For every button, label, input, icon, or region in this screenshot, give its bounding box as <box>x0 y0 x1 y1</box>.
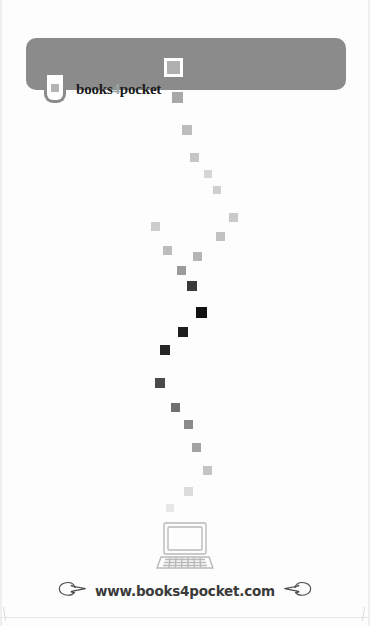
trail-square <box>193 252 202 261</box>
badge-inner-square <box>51 84 59 92</box>
trail-square <box>163 246 172 255</box>
trail-square <box>213 186 221 194</box>
trail-square <box>190 153 199 162</box>
wordmark-prefix: books <box>76 81 113 97</box>
brand-logo: books4pocket <box>44 74 161 104</box>
trail-square <box>204 170 212 178</box>
trail-square <box>192 443 201 452</box>
trail-square <box>184 420 193 429</box>
trail-square <box>229 213 238 222</box>
scan-edge-left <box>0 0 2 626</box>
trail-square <box>216 232 225 241</box>
trail-square <box>182 125 192 135</box>
pocket-badge-icon <box>44 75 66 103</box>
pointing-hand-right-icon <box>57 581 87 601</box>
website-url-text[interactable]: www.books4pocket.com <box>95 583 275 599</box>
scan-edge-bottom <box>0 617 370 618</box>
trail-square <box>171 403 180 412</box>
trail-square <box>166 504 174 512</box>
trail-square <box>184 487 193 496</box>
laptop-computer-icon <box>156 521 214 571</box>
trail-square <box>160 345 170 355</box>
scan-corner-right <box>352 605 365 621</box>
trail-square <box>196 307 207 318</box>
trail-square <box>172 92 183 103</box>
wordmark-number: 4 <box>113 81 120 97</box>
scan-corner-left <box>3 605 16 621</box>
trail-square <box>155 378 165 388</box>
trail-square <box>151 222 160 231</box>
brand-wordmark: books4pocket <box>76 81 161 98</box>
trail-square <box>177 266 186 275</box>
trail-square <box>187 281 197 291</box>
footer-url-row[interactable]: www.books4pocket.com <box>0 581 370 601</box>
trail-square <box>178 327 188 337</box>
book-back-cover-page: books4pocket www.books4pocket.com <box>0 0 370 626</box>
wordmark-suffix: pocket <box>120 81 161 97</box>
pointing-hand-left-icon <box>283 581 313 601</box>
trail-square <box>203 466 212 475</box>
